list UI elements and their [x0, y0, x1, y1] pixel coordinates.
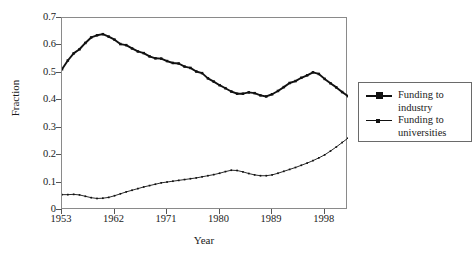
series-marker: [289, 169, 291, 171]
y-tick-mark: [56, 17, 61, 18]
series-marker: [312, 160, 314, 162]
series-marker: [120, 193, 122, 195]
y-tick-label: 0.4: [22, 94, 56, 105]
series-marker: [148, 55, 151, 58]
series-marker: [184, 179, 186, 181]
series-marker: [166, 60, 169, 63]
series-marker: [62, 194, 63, 196]
y-tick-mark: [56, 44, 61, 45]
series-marker: [125, 44, 128, 47]
x-axis-title: Year: [154, 234, 254, 246]
legend-label-universities: Funding to universities: [394, 114, 446, 139]
series-marker: [271, 174, 273, 176]
x-tick-label: 1980: [194, 213, 244, 225]
series-marker: [160, 182, 162, 184]
series-marker: [213, 174, 215, 176]
series-marker: [306, 74, 309, 77]
y-tick-label: 0.6: [22, 39, 56, 50]
series-marker: [330, 150, 332, 152]
series-marker: [154, 57, 157, 60]
series-marker: [62, 68, 63, 71]
series-marker: [213, 80, 216, 83]
series-marker: [225, 171, 227, 173]
series-marker: [67, 59, 70, 62]
series-marker: [72, 52, 75, 55]
series-marker: [102, 33, 105, 36]
series-marker: [295, 167, 297, 169]
x-tick-mark: [324, 209, 325, 214]
series-marker: [96, 198, 98, 200]
series-marker: [265, 175, 267, 177]
series-marker: [218, 84, 221, 87]
legend-line-icon-industry: [364, 89, 394, 102]
chart-figure: Fraction 00.10.20.30.40.50.60.7 19531962…: [0, 0, 476, 257]
y-tick-mark: [56, 182, 61, 183]
x-tick-mark: [219, 209, 220, 214]
series-marker: [283, 170, 285, 172]
series-marker: [283, 86, 286, 89]
series-marker: [341, 142, 343, 144]
series-marker: [306, 162, 308, 164]
series-marker: [288, 82, 291, 85]
series-marker: [230, 169, 232, 171]
series-marker: [312, 71, 315, 74]
series-marker: [84, 42, 87, 45]
series-marker: [195, 177, 197, 179]
x-tick-label: 1998: [299, 213, 349, 225]
x-axis-tick-labels: 195319621971198019891998: [0, 213, 476, 229]
series-marker: [323, 78, 326, 81]
series-marker: [189, 67, 192, 70]
x-tick-mark: [61, 209, 62, 214]
y-tick-mark: [56, 127, 61, 128]
series-marker: [172, 62, 175, 64]
series-marker: [190, 178, 192, 180]
series-marker: [347, 95, 348, 98]
series-marker: [96, 34, 99, 37]
y-tick-label: 0.3: [22, 122, 56, 133]
series-marker: [137, 188, 139, 190]
y-tick-label: 0.2: [22, 149, 56, 160]
series-marker: [219, 172, 221, 174]
series-marker: [201, 72, 204, 75]
series-marker: [79, 194, 81, 196]
y-tick-mark: [56, 154, 61, 155]
x-tick-label: 1962: [89, 213, 139, 225]
series-marker: [300, 164, 302, 166]
legend-item-funding-to-universities: Funding to universities: [364, 114, 446, 139]
series-marker: [85, 195, 87, 197]
series-marker: [177, 62, 180, 65]
series-marker: [335, 146, 337, 148]
series-marker: [78, 48, 81, 51]
series-marker: [236, 92, 239, 95]
series-marker: [155, 183, 157, 185]
series-marker: [114, 195, 116, 197]
series-marker: [142, 52, 145, 55]
series-marker: [236, 170, 238, 172]
series-marker: [131, 189, 133, 191]
series-marker: [277, 172, 279, 174]
series-marker: [271, 93, 274, 96]
x-tick-label: 1971: [141, 213, 191, 225]
y-tick-mark: [56, 72, 61, 73]
series-marker: [242, 92, 245, 95]
series-marker: [149, 185, 151, 187]
series-marker: [224, 87, 227, 90]
series-marker: [254, 174, 256, 176]
y-tick-mark: [56, 99, 61, 100]
series-marker: [300, 77, 303, 80]
y-tick-label: 0.7: [22, 12, 56, 23]
series-line: [62, 138, 348, 198]
legend-line-icon-universities: [364, 114, 394, 127]
series-marker: [107, 35, 110, 38]
series-line: [62, 34, 348, 96]
series-marker: [137, 50, 140, 53]
series-marker: [143, 186, 145, 188]
x-tick-label: 1989: [246, 213, 296, 225]
series-marker: [324, 154, 326, 156]
series-marker: [207, 175, 209, 177]
series-marker: [90, 197, 92, 199]
x-tick-label: 1953: [36, 213, 86, 225]
chart-legend: Funding to industry Funding to universit…: [358, 82, 472, 142]
series-marker: [347, 137, 348, 139]
legend-item-funding-to-industry: Funding to industry: [364, 89, 444, 114]
